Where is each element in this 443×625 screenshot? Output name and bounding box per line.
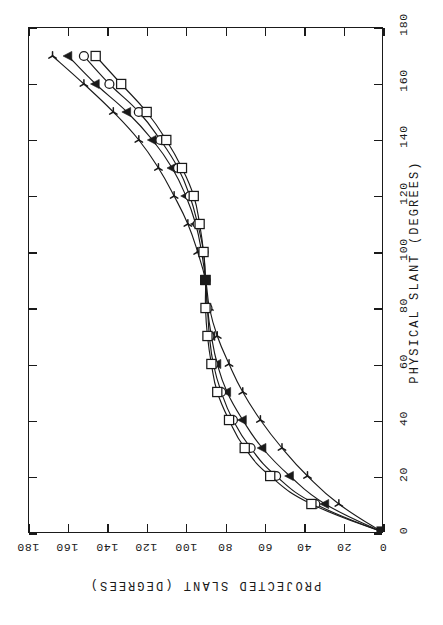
square-marker (162, 135, 171, 144)
projected-slant-tick-label: 60 (247, 541, 283, 554)
data-plot-svg (29, 28, 382, 532)
plot-area (28, 27, 383, 533)
triangle-marker (238, 415, 247, 424)
star-marker (80, 80, 87, 86)
series-line (96, 56, 382, 532)
square-marker (201, 303, 210, 312)
square-marker (266, 471, 275, 480)
physical-slant-tick-label: 20 (397, 456, 410, 492)
projected-slant-tick-label: 140 (89, 541, 125, 554)
square-marker (91, 51, 100, 60)
star-marker (335, 500, 342, 506)
projected-slant-tick-label: 180 (10, 541, 46, 554)
square-marker (195, 219, 204, 228)
projected-slant-tick-label: 160 (49, 541, 85, 554)
convergence-marker (201, 276, 210, 285)
projected-slant-tick-label: 120 (128, 541, 164, 554)
square-marker (199, 247, 208, 256)
physical-slant-tick-label: 0 (397, 513, 410, 549)
square-marker (189, 191, 198, 200)
series-square (91, 51, 382, 532)
series-triangle (63, 51, 382, 532)
physical-slant-tick-label: 160 (397, 63, 410, 99)
projected-slant-axis-title: PROJECTED SLANT (DEGREES) (0, 578, 410, 592)
projected-slant-tick-label: 100 (168, 541, 204, 554)
square-marker (224, 415, 233, 424)
star-marker (49, 52, 56, 58)
triangle-marker (257, 443, 266, 452)
circle-marker (79, 52, 88, 61)
axis-tick (374, 533, 382, 534)
origin-marker (377, 527, 382, 532)
figure-canvas: 180160140120100806040200 180160140120100… (0, 0, 443, 625)
triangle-marker (63, 51, 72, 60)
square-marker (177, 163, 186, 172)
series-star (49, 52, 382, 532)
projected-slant-tick-label: 20 (326, 541, 362, 554)
star-marker (239, 388, 246, 394)
series-line (53, 56, 382, 532)
square-marker (307, 499, 316, 508)
square-marker (213, 387, 222, 396)
projected-slant-tick-label: 80 (207, 541, 243, 554)
square-marker (207, 359, 216, 368)
square-marker (117, 79, 126, 88)
physical-slant-axis-title: PHYSICAL SLANT (DEGREES) (408, 112, 422, 432)
square-marker (240, 443, 249, 452)
triangle-marker (147, 135, 156, 144)
physical-slant-tick-label: 180 (397, 7, 410, 43)
axis-tick (383, 524, 384, 532)
axis-tick (29, 533, 37, 534)
circle-marker (105, 80, 114, 89)
square-marker (203, 331, 212, 340)
series-line (68, 56, 382, 532)
projected-slant-tick-label: 40 (286, 541, 322, 554)
axis-tick (383, 28, 384, 36)
square-marker (142, 107, 151, 116)
